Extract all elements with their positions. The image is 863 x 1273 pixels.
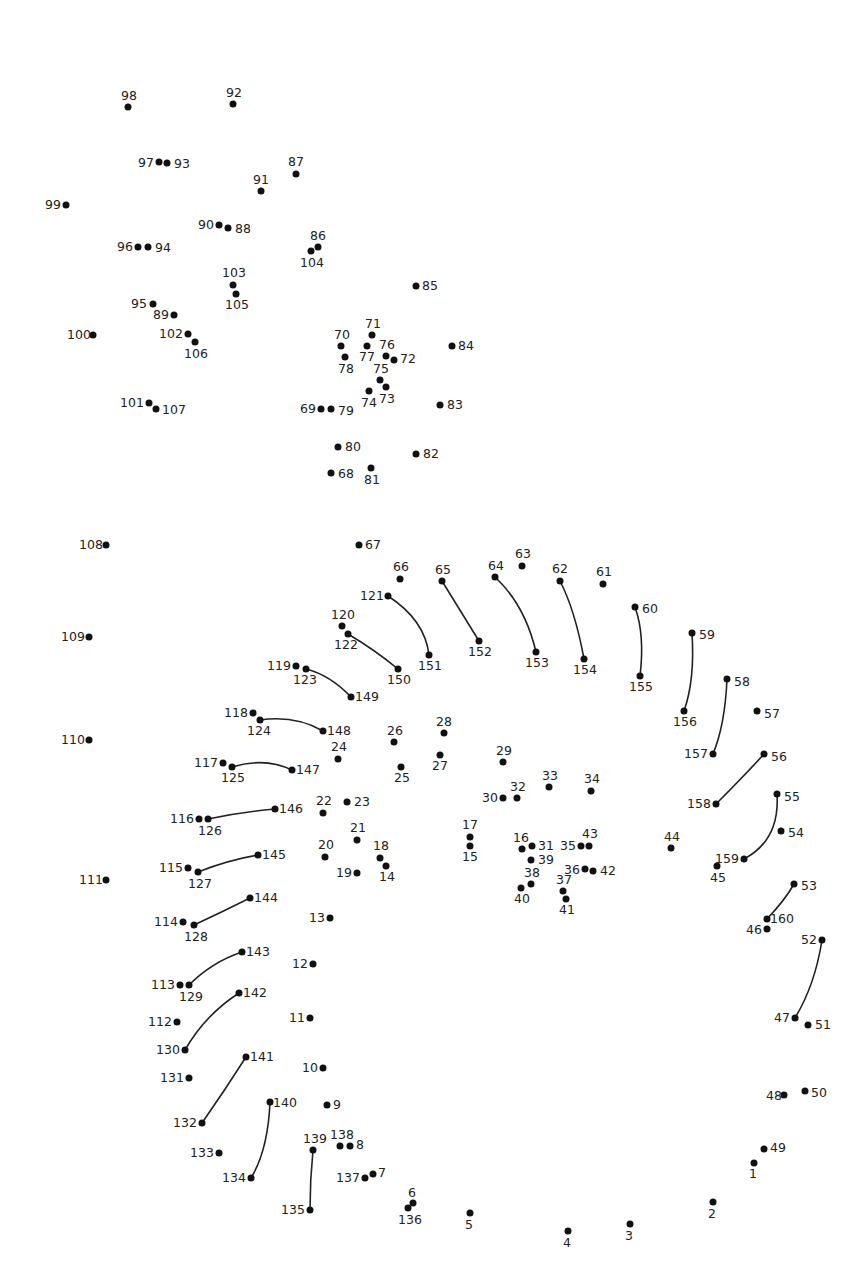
dot-36[interactable] <box>582 866 589 873</box>
dot-145[interactable] <box>255 852 262 859</box>
dot-119[interactable] <box>293 663 300 670</box>
dot-75[interactable] <box>377 377 384 384</box>
dot-11[interactable] <box>307 1015 314 1022</box>
dot-97[interactable] <box>156 159 163 166</box>
dot-47[interactable] <box>792 1015 799 1022</box>
dot-118[interactable] <box>250 710 257 717</box>
dot-56[interactable] <box>761 751 768 758</box>
dot-121[interactable] <box>385 593 392 600</box>
dot-129[interactable] <box>186 982 193 989</box>
dot-64[interactable] <box>492 574 499 581</box>
dot-144[interactable] <box>247 895 254 902</box>
dot-135[interactable] <box>307 1207 314 1214</box>
dot-78[interactable] <box>342 354 349 361</box>
dot-29[interactable] <box>500 759 507 766</box>
dot-33[interactable] <box>546 784 553 791</box>
dot-19[interactable] <box>354 870 361 877</box>
dot-60[interactable] <box>632 604 639 611</box>
dot-57[interactable] <box>754 708 761 715</box>
dot-117[interactable] <box>220 760 227 767</box>
dot-103[interactable] <box>230 282 237 289</box>
dot-133[interactable] <box>216 1150 223 1157</box>
dot-20[interactable] <box>322 854 329 861</box>
dot-76[interactable] <box>383 353 390 360</box>
dot-86[interactable] <box>315 244 322 251</box>
dot-2[interactable] <box>710 1199 717 1206</box>
dot-101[interactable] <box>146 400 153 407</box>
dot-67[interactable] <box>356 542 363 549</box>
dot-98[interactable] <box>125 104 132 111</box>
dot-102[interactable] <box>185 331 192 338</box>
dot-96[interactable] <box>135 244 142 251</box>
dot-50[interactable] <box>802 1088 809 1095</box>
dot-159[interactable] <box>741 856 748 863</box>
dot-108[interactable] <box>103 542 110 549</box>
dot-7[interactable] <box>370 1171 377 1178</box>
dot-62[interactable] <box>557 578 564 585</box>
dot-149[interactable] <box>348 694 355 701</box>
dot-24[interactable] <box>335 756 342 763</box>
dot-158[interactable] <box>713 801 720 808</box>
dot-28[interactable] <box>441 730 448 737</box>
dot-31[interactable] <box>529 843 536 850</box>
dot-10[interactable] <box>320 1065 327 1072</box>
dot-157[interactable] <box>710 751 717 758</box>
dot-9[interactable] <box>324 1102 331 1109</box>
dot-16[interactable] <box>519 846 526 853</box>
dot-115[interactable] <box>185 865 192 872</box>
dot-110[interactable] <box>86 737 93 744</box>
dot-134[interactable] <box>248 1175 255 1182</box>
dot-107[interactable] <box>153 406 160 413</box>
dot-81[interactable] <box>368 465 375 472</box>
dot-34[interactable] <box>588 788 595 795</box>
dot-138[interactable] <box>337 1143 344 1150</box>
dot-49[interactable] <box>761 1146 768 1153</box>
dot-21[interactable] <box>354 837 361 844</box>
dot-89[interactable] <box>171 312 178 319</box>
dot-68[interactable] <box>328 470 335 477</box>
dot-37[interactable] <box>560 888 567 895</box>
dot-128[interactable] <box>191 922 198 929</box>
dot-51[interactable] <box>805 1022 812 1029</box>
dot-58[interactable] <box>724 676 731 683</box>
dot-83[interactable] <box>437 402 444 409</box>
dot-22[interactable] <box>320 810 327 817</box>
dot-53[interactable] <box>791 881 798 888</box>
dot-104[interactable] <box>308 248 315 255</box>
dot-91[interactable] <box>258 188 265 195</box>
dot-35[interactable] <box>578 843 585 850</box>
dot-30[interactable] <box>500 795 507 802</box>
dot-12[interactable] <box>310 961 317 968</box>
dot-39[interactable] <box>528 857 535 864</box>
dot-43[interactable] <box>586 843 593 850</box>
dot-106[interactable] <box>192 339 199 346</box>
dot-63[interactable] <box>519 563 526 570</box>
dot-72[interactable] <box>391 357 398 364</box>
dot-70[interactable] <box>338 343 345 350</box>
dot-4[interactable] <box>565 1228 572 1235</box>
dot-139[interactable] <box>310 1147 317 1154</box>
dot-85[interactable] <box>413 283 420 290</box>
dot-132[interactable] <box>199 1120 206 1127</box>
dot-59[interactable] <box>689 630 696 637</box>
dot-93[interactable] <box>164 160 171 167</box>
dot-80[interactable] <box>335 444 342 451</box>
dot-148[interactable] <box>320 728 327 735</box>
dot-131[interactable] <box>186 1075 193 1082</box>
dot-23[interactable] <box>344 799 351 806</box>
dot-114[interactable] <box>180 919 187 926</box>
dot-74[interactable] <box>366 388 373 395</box>
dot-54[interactable] <box>778 828 785 835</box>
dot-147[interactable] <box>289 767 296 774</box>
dot-141[interactable] <box>243 1054 250 1061</box>
dot-126[interactable] <box>205 816 212 823</box>
dot-42[interactable] <box>590 868 597 875</box>
dot-87[interactable] <box>293 171 300 178</box>
dot-130[interactable] <box>182 1047 189 1054</box>
dot-127[interactable] <box>195 869 202 876</box>
dot-46[interactable] <box>764 926 771 933</box>
dot-52[interactable] <box>819 937 826 944</box>
dot-38[interactable] <box>528 881 535 888</box>
dot-13[interactable] <box>327 915 334 922</box>
dot-79[interactable] <box>328 406 335 413</box>
